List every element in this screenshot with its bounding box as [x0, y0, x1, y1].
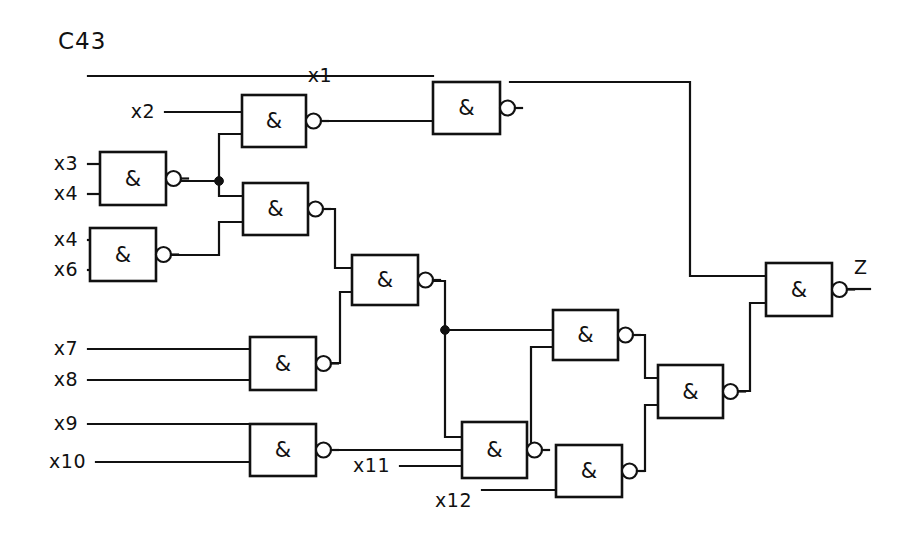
inversion-bubble-icon [156, 247, 171, 262]
gate-symbol-label: & [577, 323, 593, 347]
gate-symbol-label: & [458, 96, 474, 120]
circuit-diagram-root: C43 &&&&&&&&&&&&& x1x2x3x4x4x6x7x8x9x10x… [0, 0, 904, 545]
input-label-x12: x12 [435, 489, 472, 511]
diagram-title: C43 [58, 28, 106, 54]
inversion-bubble-icon [618, 328, 633, 343]
output-label-Z: Z [854, 256, 868, 278]
inversion-bubble-icon [166, 171, 181, 186]
gate-symbol-label: & [377, 268, 393, 292]
inversion-bubble-icon [723, 384, 738, 399]
inversion-bubble-icon [418, 273, 433, 288]
gate-symbol-label: & [682, 380, 698, 404]
wire-junction-dot [441, 326, 450, 335]
input-label-x11: x11 [353, 454, 390, 476]
input-label-x4: x4 [54, 182, 78, 204]
inversion-bubble-icon [622, 464, 637, 479]
input-label-x1: x1 [308, 64, 332, 86]
inversion-bubble-icon [308, 202, 323, 217]
gate-symbol-label: & [581, 459, 597, 483]
input-label-x8: x8 [54, 368, 78, 390]
inversion-bubble-icon [500, 101, 515, 116]
gate-symbol-label: & [791, 278, 807, 302]
input-label-x2: x2 [131, 100, 155, 122]
gate-symbol-label: & [267, 197, 283, 221]
input-label-x10: x10 [49, 450, 86, 472]
wire-junction-dot [215, 177, 224, 186]
input-label-x7: x7 [54, 337, 78, 359]
inversion-bubble-icon [832, 282, 847, 297]
inversion-bubble-icon [316, 356, 331, 371]
inversion-bubble-icon [306, 114, 321, 129]
circuit-schematic: C43 &&&&&&&&&&&&& x1x2x3x4x4x6x7x8x9x10x… [0, 0, 904, 545]
gate-symbol-label: & [125, 167, 141, 191]
input-label-x9: x9 [54, 412, 78, 434]
input-label-x4: x4 [54, 228, 78, 250]
gate-symbol-label: & [486, 438, 502, 462]
gate-symbol-label: & [115, 243, 131, 267]
inversion-bubble-icon [316, 443, 331, 458]
inversion-bubble-icon [527, 443, 542, 458]
gate-symbol-label: & [275, 352, 291, 376]
gate-symbol-label: & [275, 438, 291, 462]
input-label-x6: x6 [54, 258, 78, 280]
input-label-x3: x3 [54, 152, 78, 174]
gate-symbol-label: & [266, 109, 282, 133]
